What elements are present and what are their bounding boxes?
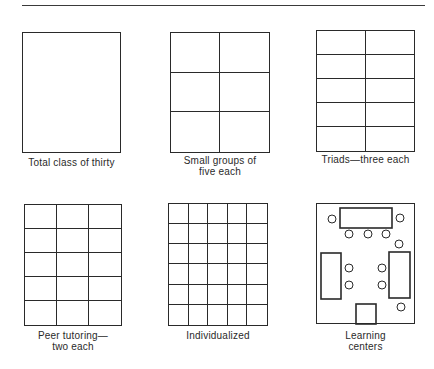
seat-circle	[397, 303, 405, 311]
seat-circle	[345, 230, 353, 238]
learning-centers-floorplan	[0, 0, 434, 369]
label-line: centers	[286, 341, 434, 352]
seat-circle	[395, 240, 403, 248]
seat-circle	[364, 230, 372, 238]
seat-circle	[345, 264, 353, 272]
bottom-center-table	[356, 304, 376, 324]
label-line: Learning	[286, 330, 434, 341]
seat-circle	[382, 230, 390, 238]
seat-circle	[328, 215, 336, 223]
seat-circle	[345, 281, 353, 289]
top-table	[340, 208, 392, 228]
seat-circle	[396, 214, 404, 222]
seat-circle	[378, 281, 386, 289]
left-table	[321, 253, 341, 299]
right-table	[389, 252, 410, 298]
label-learning-centers: Learningcenters	[286, 330, 434, 352]
seat-circle	[378, 264, 386, 272]
